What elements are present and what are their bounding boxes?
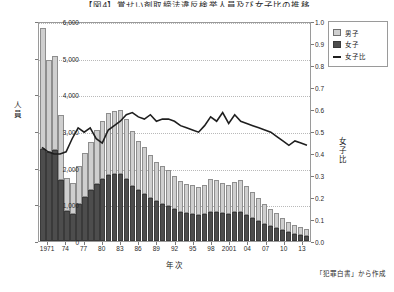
bar-column bbox=[292, 23, 297, 241]
legend-label-female-ratio: 女子比 bbox=[345, 51, 366, 61]
bar-segment-male bbox=[190, 185, 195, 214]
x-axis-tick-mark bbox=[47, 242, 48, 245]
bar-segment-female bbox=[268, 226, 273, 241]
bar-segment-male bbox=[124, 119, 129, 179]
x-axis-tick-mark bbox=[211, 242, 212, 245]
bar-segment-female bbox=[172, 209, 177, 241]
bar-column bbox=[304, 23, 309, 241]
y-axis-tick-label: 3,000 bbox=[39, 129, 79, 136]
bar-segment-male bbox=[52, 56, 57, 151]
bar-segment-male bbox=[160, 166, 165, 204]
x-axis-tick-label: 04 bbox=[244, 245, 251, 252]
y-axis-tick-label: 4,000 bbox=[39, 92, 79, 99]
bar-column bbox=[268, 23, 273, 241]
bar-segment-male bbox=[274, 213, 279, 228]
bar-segment-female bbox=[280, 230, 285, 241]
bar-column bbox=[154, 23, 159, 241]
legend-item-female: 女子 bbox=[333, 39, 383, 49]
bar-segment-female bbox=[292, 234, 297, 241]
secondary-y-axis-tick-mark bbox=[311, 176, 314, 177]
x-axis-tick-label: 10 bbox=[280, 245, 287, 252]
secondary-y-axis-tick-label: 0.6 bbox=[315, 107, 343, 114]
bar-segment-female bbox=[40, 149, 45, 241]
bar-segment-female bbox=[52, 150, 57, 241]
bar-column bbox=[280, 23, 285, 241]
x-axis-tick-mark bbox=[193, 242, 194, 245]
bar-segment-female bbox=[142, 194, 147, 241]
bar-segment-male bbox=[304, 229, 309, 236]
bar-segment-female bbox=[232, 212, 237, 241]
secondary-y-axis-tick-label: 0.1 bbox=[315, 217, 343, 224]
secondary-y-axis-tick-label: 0.4 bbox=[315, 151, 343, 158]
bar-segment-male bbox=[166, 170, 171, 206]
x-axis-tick-mark bbox=[266, 242, 267, 245]
y-axis-tick-mark bbox=[35, 169, 38, 170]
x-axis-tick-label: 92 bbox=[171, 245, 178, 252]
secondary-y-axis-tick-label: 0.5 bbox=[315, 129, 343, 136]
bar-segment-female bbox=[196, 215, 201, 241]
x-axis-label: 年次 bbox=[0, 259, 349, 270]
secondary-y-axis-tick-mark bbox=[311, 66, 314, 67]
legend-swatch-male-icon bbox=[333, 29, 341, 36]
bar-segment-male bbox=[208, 179, 213, 212]
x-axis-tick-label: 98 bbox=[207, 245, 214, 252]
bar-segment-male bbox=[214, 180, 219, 212]
x-axis-tick-mark bbox=[138, 242, 139, 245]
bar-column bbox=[106, 23, 111, 241]
bar-segment-male bbox=[244, 186, 249, 215]
secondary-y-axis-tick-label: 0.2 bbox=[315, 195, 343, 202]
secondary-y-axis-tick-mark bbox=[311, 198, 314, 199]
x-axis-tick-label: 07 bbox=[262, 245, 269, 252]
x-axis-tick-mark bbox=[229, 242, 230, 245]
bar-segment-male bbox=[220, 183, 225, 213]
bar-column bbox=[88, 23, 93, 241]
secondary-y-axis-tick-mark bbox=[311, 242, 314, 243]
bar-column bbox=[232, 23, 237, 241]
bar-column bbox=[166, 23, 171, 241]
bar-segment-female bbox=[244, 215, 249, 241]
bar-column bbox=[244, 23, 249, 241]
bar-series-container bbox=[39, 23, 310, 241]
secondary-y-axis-tick-label: 0.7 bbox=[315, 85, 343, 92]
bar-column bbox=[286, 23, 291, 241]
y-axis-tick-label: 2,000 bbox=[39, 165, 79, 172]
bar-segment-male bbox=[256, 198, 261, 221]
secondary-y-axis-tick-mark bbox=[311, 88, 314, 89]
legend-swatch-female-icon bbox=[333, 41, 341, 48]
secondary-y-axis-tick-mark bbox=[311, 44, 314, 45]
bar-segment-male bbox=[94, 130, 99, 184]
bar-column bbox=[160, 23, 165, 241]
x-axis-tick-mark bbox=[84, 242, 85, 245]
y-axis-tick-mark bbox=[35, 59, 38, 60]
bar-segment-female bbox=[76, 204, 81, 241]
bar-segment-male bbox=[238, 180, 243, 212]
bar-segment-female bbox=[154, 201, 159, 241]
secondary-y-axis-tick-mark bbox=[311, 110, 314, 111]
legend-item-male: 男子 bbox=[333, 28, 383, 38]
bar-column bbox=[184, 23, 189, 241]
bar-segment-female bbox=[214, 212, 219, 241]
bar-column bbox=[118, 23, 123, 241]
bar-segment-female bbox=[130, 186, 135, 241]
bar-column bbox=[298, 23, 303, 241]
bar-segment-female bbox=[208, 212, 213, 241]
bar-segment-male bbox=[106, 113, 111, 175]
x-axis-tick-mark bbox=[175, 242, 176, 245]
bar-segment-male bbox=[46, 60, 51, 152]
bar-segment-female bbox=[166, 206, 171, 241]
page-title: 【図4】覚せい剤取締法違反検挙人員及び女子比の推移 bbox=[0, 0, 394, 7]
bar-segment-male bbox=[226, 185, 231, 214]
bar-segment-female bbox=[112, 174, 117, 241]
bar-segment-male bbox=[82, 153, 87, 197]
x-axis-tick-mark bbox=[120, 242, 121, 245]
bar-column bbox=[202, 23, 207, 241]
y-axis-tick-label: 6,000 bbox=[39, 19, 79, 26]
bar-segment-male bbox=[232, 182, 237, 213]
bar-column bbox=[100, 23, 105, 241]
bar-segment-male bbox=[154, 162, 159, 202]
bar-segment-female bbox=[148, 198, 153, 241]
bar-segment-female bbox=[262, 224, 267, 241]
bar-segment-female bbox=[58, 180, 63, 241]
bar-column bbox=[136, 23, 141, 241]
x-axis-tick-label: 95 bbox=[189, 245, 196, 252]
